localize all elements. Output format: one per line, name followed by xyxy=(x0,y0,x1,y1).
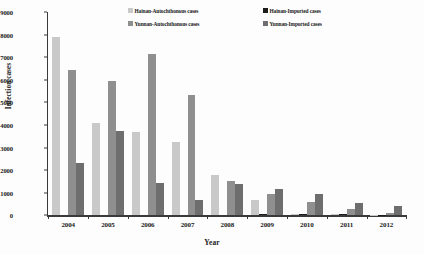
bar xyxy=(331,214,339,215)
bar-groups xyxy=(48,12,406,215)
bar xyxy=(172,142,180,215)
bar xyxy=(132,132,140,215)
bar xyxy=(267,194,275,215)
bar-group xyxy=(207,12,247,215)
y-tick-label: 0 xyxy=(0,212,13,219)
bar xyxy=(52,37,60,215)
bar xyxy=(378,215,386,216)
bar-group xyxy=(128,12,168,215)
x-tick-mark xyxy=(207,215,208,219)
bar xyxy=(355,203,363,215)
y-tick-mark xyxy=(44,170,48,171)
y-tick-mark xyxy=(44,192,48,193)
x-tick-mark xyxy=(88,215,89,219)
y-tick-mark xyxy=(44,215,48,216)
x-tick-mark xyxy=(367,215,368,219)
bar xyxy=(92,123,100,215)
bar xyxy=(156,183,164,215)
bar xyxy=(386,213,394,215)
x-axis-title: Year xyxy=(0,238,424,247)
bar xyxy=(291,214,299,215)
bar xyxy=(339,214,347,215)
bar-group xyxy=(287,12,327,215)
chart-figure: Hainan-Autochthonous casesHainan-Importe… xyxy=(0,0,424,254)
y-tick-label: 2000 xyxy=(0,167,13,174)
bar xyxy=(347,209,355,215)
bar-group xyxy=(247,12,287,215)
bar xyxy=(68,70,76,215)
y-tick-mark xyxy=(44,57,48,58)
x-axis-line xyxy=(47,215,407,216)
bar-group xyxy=(327,12,367,215)
bar xyxy=(227,181,235,216)
bar-group xyxy=(88,12,128,215)
bar xyxy=(251,200,259,215)
y-tick-label: 1000 xyxy=(0,189,13,196)
bar xyxy=(315,194,323,215)
bar xyxy=(188,95,196,216)
y-tick-mark xyxy=(44,147,48,148)
y-tick-mark xyxy=(44,102,48,103)
bar xyxy=(108,81,116,216)
y-tick-label: 9000 xyxy=(0,9,13,16)
bar xyxy=(259,214,267,215)
x-tick-mark xyxy=(287,215,288,219)
y-tick-mark xyxy=(44,12,48,13)
bar xyxy=(195,200,203,216)
x-tick-mark xyxy=(406,215,407,219)
bar xyxy=(275,189,283,215)
y-tick-mark xyxy=(44,79,48,80)
y-tick-mark xyxy=(44,124,48,125)
bar xyxy=(76,163,84,215)
x-tick-mark xyxy=(48,215,49,219)
x-tick-mark xyxy=(327,215,328,219)
x-tick-mark xyxy=(128,215,129,219)
y-axis-title: Infection cases xyxy=(5,21,13,151)
x-tick-label: 2012 xyxy=(361,221,411,229)
bar-group xyxy=(48,12,88,215)
bar-group xyxy=(367,12,407,215)
bar-group xyxy=(168,12,208,215)
bar xyxy=(235,184,243,216)
bar xyxy=(394,206,402,215)
bar xyxy=(148,54,156,215)
x-tick-mark xyxy=(168,215,169,219)
bar xyxy=(299,214,307,215)
bar xyxy=(116,131,124,216)
y-tick-mark xyxy=(44,34,48,35)
bar xyxy=(211,175,219,216)
bar xyxy=(307,202,315,216)
x-tick-mark xyxy=(247,215,248,219)
bar xyxy=(370,215,378,216)
